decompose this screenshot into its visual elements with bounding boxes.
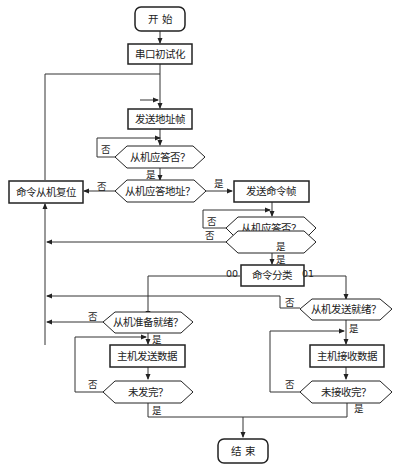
slave-response-address-label: 从机应答地址？ — [125, 185, 195, 197]
host-send-data-label: 主机发送数据 — [117, 350, 178, 362]
label-no-not-sent: 否 — [88, 379, 98, 390]
label-no-not-recv: 否 — [285, 379, 295, 390]
label-code-01: 01 — [302, 268, 314, 279]
slave-send-ready-label: 从机发送就绪？ — [311, 303, 381, 315]
slave-response-1-label: 从机应答否？ — [130, 151, 190, 163]
end-label: 结 束 — [231, 445, 255, 457]
label-yes-resp-addr: 是 — [214, 178, 224, 189]
host-receive-data-label: 主机接收数据 — [317, 350, 378, 362]
send-command-frame-label: 发送命令帧 — [246, 185, 297, 197]
send-address-frame-process: 发送地址帧 — [128, 109, 192, 129]
label-no-resp1: 否 — [101, 144, 111, 155]
label-yes-slave-send-ready: 是 — [349, 323, 359, 334]
slave-response-address-decision: 从机应答地址？ — [115, 180, 206, 202]
reset-slave-process: 命令从机复位 — [9, 181, 83, 203]
command-classify-process: 命令分类 — [241, 265, 304, 286]
label-no-cmd-correct: 否 — [205, 230, 215, 241]
slave-ready-decision: 从机准备就绪？ — [103, 312, 193, 333]
start-label: 开 始 — [148, 13, 172, 25]
command-correct-decision — [226, 231, 316, 253]
label-no-slave-send-ready: 否 — [285, 297, 295, 308]
command-classify-label: 命令分类 — [252, 269, 293, 281]
not-sent-done-label: 未发完？ — [128, 386, 168, 398]
slave-response-decision-1: 从机应答否？ — [115, 146, 205, 168]
slave-ready-label: 从机准备就绪？ — [113, 316, 183, 328]
flowchart: 开 始 串口初试化 发送地址帧 从机应答否？ 从机应答地址？ 命令从机复位 发送… — [0, 0, 399, 472]
reset-slave-label: 命令从机复位 — [16, 186, 77, 198]
not-received-done-label: 未接收完？ — [321, 386, 371, 398]
not-received-done-decision: 未接收完？ — [300, 381, 392, 403]
host-send-data-process: 主机发送数据 — [110, 345, 185, 367]
label-yes-not-recv: 是 — [354, 403, 364, 414]
label-no-resp2: 否 — [207, 216, 217, 227]
label-code-00: 00 — [226, 268, 238, 279]
not-sent-done-decision: 未发完？ — [103, 381, 193, 403]
label-yes-cmd-correct: 是 — [276, 254, 286, 265]
serial-init-label: 串口初试化 — [135, 48, 186, 60]
label-yes-resp2: 是 — [276, 241, 286, 252]
label-no-slave-ready: 否 — [88, 311, 98, 322]
send-address-frame-label: 发送地址帧 — [135, 113, 186, 125]
label-no-resp-addr: 否 — [97, 181, 107, 192]
label-yes-slave-ready: 是 — [152, 334, 162, 345]
host-receive-data-process: 主机接收数据 — [310, 345, 384, 367]
serial-init-process: 串口初试化 — [128, 44, 192, 64]
start-terminal: 开 始 — [135, 7, 185, 31]
end-terminal: 结 束 — [218, 439, 268, 463]
label-yes-not-sent: 是 — [152, 405, 162, 416]
label-yes-resp1: 是 — [146, 169, 156, 180]
slave-send-ready-decision: 从机发送就绪？ — [300, 299, 392, 320]
send-command-frame-process: 发送命令帧 — [234, 181, 309, 202]
